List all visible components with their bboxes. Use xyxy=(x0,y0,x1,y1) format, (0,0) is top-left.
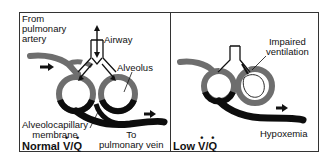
title-low-prefix: Low xyxy=(173,140,195,152)
label-hypoxemia: Hypoxemia xyxy=(260,129,308,139)
title-normal-vq: Normal V/Q xyxy=(22,140,82,152)
label-alveolus: Alveolus xyxy=(117,63,153,73)
title-normal-q: Q xyxy=(73,140,82,152)
title-low-v: V xyxy=(198,140,205,152)
label-impaired-ventilation: Impaired ventilation xyxy=(266,37,309,57)
title-low-vq: Low V/Q xyxy=(173,140,217,152)
label-to-pulmonary-vein: To pulmonary vein xyxy=(99,130,163,150)
title-normal-prefix: Normal xyxy=(22,140,60,152)
low-vq-illustration xyxy=(180,46,303,120)
title-low-q: Q xyxy=(208,140,217,152)
label-airway: Airway xyxy=(104,35,133,45)
title-normal-v: V xyxy=(63,140,70,152)
label-from-pulmonary-artery: From pulmonary artery xyxy=(22,14,66,44)
